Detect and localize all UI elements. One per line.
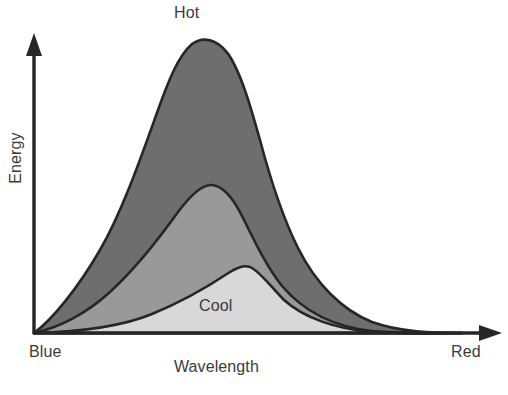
x-axis-tick-label-red: Red — [451, 344, 481, 360]
y-axis-title: Energy — [8, 126, 24, 190]
blackbody-radiation-chart: Hot Cool Blue Red Wavelength Energy — [0, 0, 508, 395]
x-axis-title: Wavelength — [174, 359, 259, 375]
y-axis-arrow-icon — [26, 33, 42, 56]
series-annotation-hot: Hot — [174, 5, 199, 21]
series-annotation-cool: Cool — [199, 298, 232, 314]
x-axis-tick-label-blue: Blue — [29, 344, 61, 360]
chart-plot-area — [0, 0, 508, 395]
x-axis-arrow-icon — [479, 325, 502, 341]
